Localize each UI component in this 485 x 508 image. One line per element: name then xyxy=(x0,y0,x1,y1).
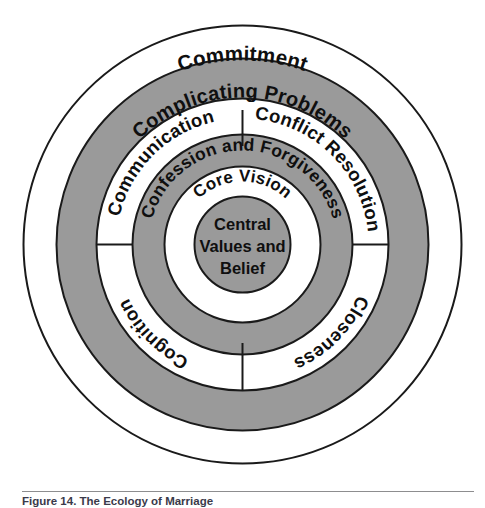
center-label-line-2: Values and xyxy=(199,237,285,255)
center-label-line-3: Belief xyxy=(220,259,265,277)
center-label-line-1: Central xyxy=(214,215,271,233)
figure-caption: Figure 14. The Ecology of Marriage xyxy=(22,495,462,508)
caption-divider-rule xyxy=(22,491,474,492)
